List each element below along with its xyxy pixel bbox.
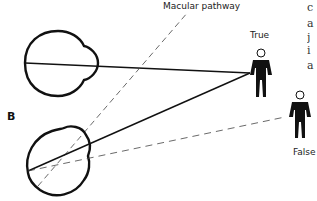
false-pathway-line [28, 117, 285, 171]
false-label: False [293, 147, 316, 157]
solid-pathway-line [28, 73, 250, 171]
clipped-line: a [307, 60, 317, 72]
figure-false [289, 91, 311, 138]
true-label: True [250, 30, 269, 40]
eye-top-axis [25, 63, 250, 73]
macular-pathway-line [38, 12, 188, 186]
clipped-line: i [307, 45, 317, 57]
clipped-line: j [307, 32, 317, 44]
clipped-line: a [307, 18, 317, 30]
panel-label: B [7, 110, 15, 123]
macular-pathway-label: Macular pathway [163, 1, 240, 11]
clipped-text-column: c a j i a [307, 0, 317, 90]
diagram [0, 0, 317, 201]
clipped-line: c [307, 2, 317, 14]
figure-true [250, 49, 272, 97]
